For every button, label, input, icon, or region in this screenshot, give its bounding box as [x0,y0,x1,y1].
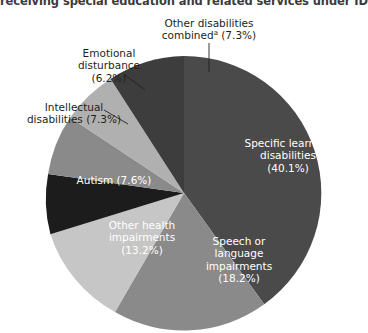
pie-chart-figure: receiving special education and related … [0,0,368,333]
slice-label-other-disabilities-combined: Other disabilities combineda (7.3%) [142,17,276,42]
slice-label-line: disturbance [52,59,166,71]
slice-label-emotional-disturbance: Emotional disturbance (6.2%) [52,47,166,84]
slice-label-line: Intellectual [8,101,140,113]
slice-label-intellectual-disabilities: Intellectual disabilities (7.3%) [8,101,140,126]
slice-label-value: (6.2%) [52,72,166,84]
slice-label-line: Other disabilities [142,17,276,29]
pie-slices [46,56,322,331]
slice-label-text: combined [162,29,214,41]
slice-label-value: (7.3%) [218,29,256,41]
slice-label-line-with-footnote: combineda (7.3%) [142,29,276,41]
slice-label-line: Emotional [52,47,166,59]
slice-label-value: disabilities (7.3%) [8,113,140,125]
